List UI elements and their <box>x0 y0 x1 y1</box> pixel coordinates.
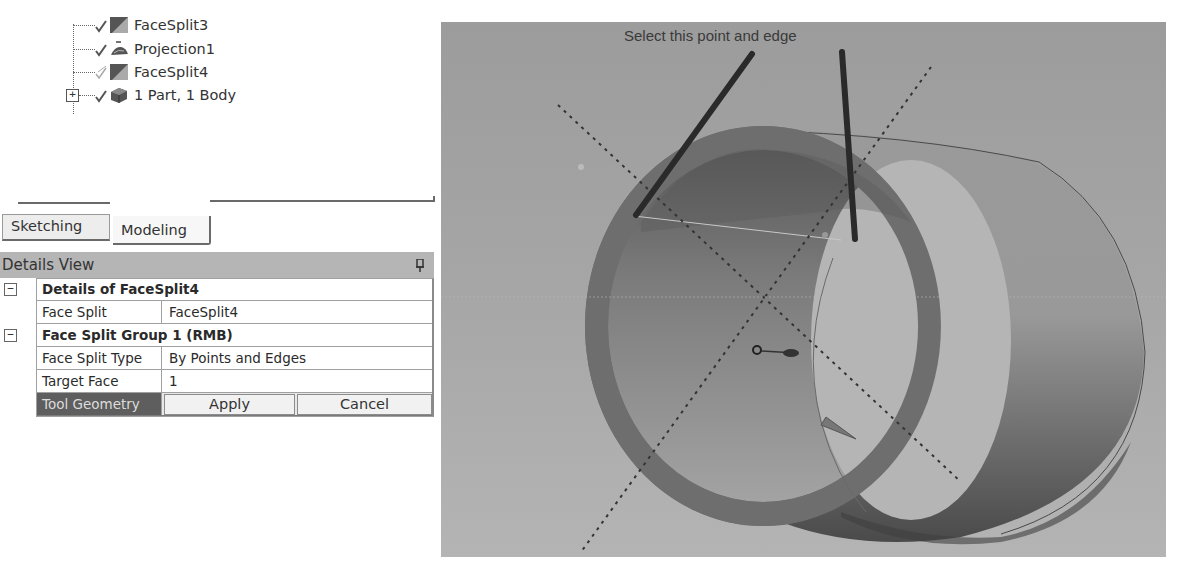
property-label: Tool Geometry <box>36 393 162 415</box>
property-value[interactable]: By Points and Edges <box>163 347 434 369</box>
tree-connector <box>73 72 95 73</box>
tab-border <box>18 202 110 204</box>
tab-sketching[interactable]: Sketching <box>2 214 110 241</box>
tree-connector <box>79 95 95 96</box>
tree-item-label: Projection1 <box>134 41 215 57</box>
tree-item-facesplit3[interactable]: FaceSplit3 <box>60 14 208 36</box>
tool-geometry-row[interactable]: Tool Geometry Apply Cancel <box>36 393 434 417</box>
tree-connector <box>73 25 95 26</box>
property-label: Face Split Type <box>36 347 162 369</box>
details-view-title: Details View <box>2 256 94 274</box>
graphics-viewport[interactable]: Select this point and edge <box>441 22 1166 557</box>
pin-icon[interactable] <box>416 258 424 270</box>
face-split-icon <box>109 63 129 81</box>
tree-item-projection1[interactable]: Projection1 <box>60 38 215 60</box>
tree-connector <box>73 49 95 50</box>
tab-modeling[interactable]: Modeling <box>113 216 211 245</box>
property-value[interactable]: 1 <box>163 370 434 392</box>
tab-border <box>433 196 435 202</box>
details-view-header: Details View <box>0 252 434 278</box>
check-icon <box>95 41 107 57</box>
tree-item-facesplit4[interactable]: FaceSplit4 <box>60 61 208 83</box>
property-label: Face Split <box>36 301 162 323</box>
check-icon <box>95 87 107 103</box>
model-tree: FaceSplit3 Projection1 FaceSplit4 + 1 Pa… <box>60 0 360 140</box>
expand-icon[interactable]: + <box>66 89 79 102</box>
details-table: − Details of FaceSplit4 Face Split FaceS… <box>36 278 434 417</box>
part-body-icon <box>109 86 129 104</box>
tab-border <box>210 200 435 202</box>
collapse-icon[interactable]: − <box>4 283 17 296</box>
tree-item-part-body[interactable]: + 1 Part, 1 Body <box>60 84 236 106</box>
tree-item-label: FaceSplit4 <box>134 64 208 80</box>
apply-button[interactable]: Apply <box>164 394 295 415</box>
table-row[interactable]: Face Split Type By Points and Edges <box>36 347 434 370</box>
pending-check-icon <box>95 64 107 80</box>
face-split-icon <box>109 16 129 34</box>
property-label: Target Face <box>36 370 162 392</box>
table-row[interactable]: Face Split FaceSplit4 <box>36 301 434 324</box>
tree-item-label: 1 Part, 1 Body <box>134 87 236 103</box>
tab-strip: Sketching Modeling <box>0 196 437 240</box>
tree-item-label: FaceSplit3 <box>134 17 208 33</box>
collapse-icon[interactable]: − <box>4 329 17 342</box>
group-header-details[interactable]: − Details of FaceSplit4 <box>36 278 434 301</box>
annotation-label: Select this point and edge <box>624 27 797 44</box>
projection-icon <box>109 40 129 58</box>
group-title: Details of FaceSplit4 <box>36 278 434 297</box>
table-row[interactable]: Target Face 1 <box>36 370 434 393</box>
check-icon <box>95 17 107 33</box>
group-header-face-split-group[interactable]: − Face Split Group 1 (RMB) <box>36 324 434 347</box>
cancel-button[interactable]: Cancel <box>297 394 432 415</box>
group-title: Face Split Group 1 (RMB) <box>36 324 434 343</box>
cylinder-model[interactable] <box>441 22 1166 557</box>
property-value[interactable]: FaceSplit4 <box>163 301 434 323</box>
